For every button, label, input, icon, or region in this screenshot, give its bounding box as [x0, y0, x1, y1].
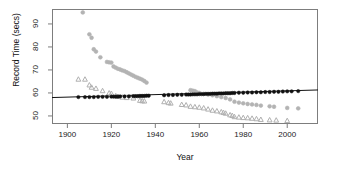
chart-canvas: [0, 0, 343, 174]
y-tick-label: 80: [31, 37, 40, 55]
x-tick-label: 1980: [225, 130, 261, 139]
chart-figure: Record Time (secs) Year 5060708090 19001…: [0, 0, 343, 174]
y-tick-label: 50: [31, 106, 40, 124]
x-tick-label: 2000: [269, 130, 305, 139]
x-tick-label: 1940: [137, 130, 173, 139]
axis-ticks: [48, 24, 287, 128]
y-tick-label: 70: [31, 60, 40, 78]
x-tick-label: 1900: [49, 130, 85, 139]
x-axis-title: Year: [52, 152, 318, 162]
x-tick-label: 1960: [181, 130, 217, 139]
x-tick-label: 1920: [93, 130, 129, 139]
series-gray-triangles: [76, 77, 290, 123]
y-axis-title: Record Time (secs): [11, 10, 21, 90]
y-tick-label: 90: [31, 14, 40, 32]
y-tick-label: 60: [31, 83, 40, 101]
